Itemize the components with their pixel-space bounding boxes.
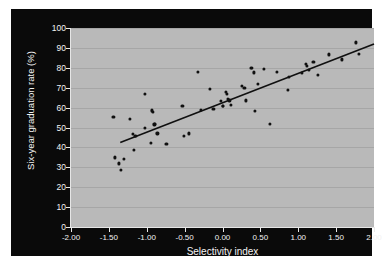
scatter-point: [149, 141, 152, 144]
scatter-point: [219, 100, 222, 103]
scatter-point: [229, 104, 232, 107]
gridline: [71, 88, 374, 89]
y-tick-mark: [66, 88, 71, 89]
scatter-point: [199, 109, 202, 112]
x-tick-label: -0.50: [176, 233, 194, 242]
y-tick-label: 50: [57, 123, 66, 132]
gridline: [71, 187, 374, 188]
x-tick-mark: [147, 227, 148, 232]
scatter-point: [288, 75, 291, 78]
scatter-point: [252, 71, 255, 74]
y-tick-label: 80: [57, 63, 66, 72]
gridline: [71, 207, 374, 208]
x-tick-mark: [185, 227, 186, 232]
scatter-point: [312, 60, 315, 63]
x-tick-mark: [374, 227, 375, 232]
scatter-point: [354, 41, 357, 44]
y-tick-label: 0: [61, 223, 66, 232]
y-tick-mark: [66, 128, 71, 129]
y-tick-label: 20: [57, 183, 66, 192]
gridline: [71, 108, 374, 109]
y-tick-label: 70: [57, 83, 66, 92]
y-tick-mark: [66, 207, 71, 208]
x-tick-label: 2.00: [366, 233, 382, 242]
x-tick-mark: [71, 227, 72, 232]
y-tick-label: 40: [57, 143, 66, 152]
gridline: [71, 147, 374, 148]
gridline: [71, 167, 374, 168]
figure-container: 0102030405060708090100 -2.00-1.50-1.00-0…: [0, 0, 382, 271]
scatter-point: [156, 132, 159, 135]
scatter-point: [316, 74, 319, 77]
chart-panel: 0102030405060708090100 -2.00-1.50-1.00-0…: [11, 9, 372, 256]
y-tick-labels-group: 0102030405060708090100: [39, 28, 66, 227]
scatter-point: [250, 66, 253, 69]
scatter-point: [132, 148, 135, 151]
y-tick-mark: [66, 187, 71, 188]
scatter-point: [328, 53, 331, 56]
x-tick-mark: [223, 227, 224, 232]
y-tick-mark: [66, 167, 71, 168]
y-tick-mark: [66, 28, 71, 29]
x-tick-mark: [109, 227, 110, 232]
scatter-point: [300, 71, 303, 74]
scatter-point: [153, 122, 156, 125]
scatter-point: [182, 134, 185, 137]
x-tick-mark: [260, 227, 261, 232]
x-tick-label: -1.00: [138, 233, 156, 242]
scatter-point: [228, 99, 231, 102]
scatter-point: [196, 70, 199, 73]
scatter-point: [208, 87, 211, 90]
y-tick-label: 60: [57, 103, 66, 112]
y-axis-title: Six-year graduation rate (%): [25, 36, 36, 186]
scatter-point: [144, 127, 147, 130]
scatter-point: [151, 110, 154, 113]
y-tick-mark: [66, 108, 71, 109]
scatter-point: [119, 168, 122, 171]
y-tick-label: 100: [52, 24, 66, 33]
scatter-point: [243, 86, 246, 89]
y-tick-mark: [66, 48, 71, 49]
scatter-point: [122, 157, 125, 160]
scatter-point: [135, 134, 138, 137]
x-tick-label: 0.50: [253, 233, 269, 242]
scatter-point: [212, 108, 215, 111]
y-tick-label: 10: [57, 203, 66, 212]
y-tick-label: 90: [57, 43, 66, 52]
scatter-point: [257, 83, 260, 86]
x-tick-label: 0.00: [215, 233, 231, 242]
scatter-point: [113, 156, 116, 159]
x-tick-label: -1.50: [100, 233, 118, 242]
scatter-point: [263, 67, 266, 70]
y-tick-mark: [66, 68, 71, 69]
gridline: [71, 128, 374, 129]
scatter-point: [341, 58, 344, 61]
x-tick-labels-group: -2.00-1.50-1.00-0.500.000.501.001.502.00: [71, 233, 374, 245]
scatter-point: [357, 53, 360, 56]
y-tick-label: 30: [57, 163, 66, 172]
x-tick-mark: [298, 227, 299, 232]
scatter-point: [128, 118, 131, 121]
scatter-point: [225, 92, 228, 95]
gridline: [71, 28, 374, 29]
scatter-point: [165, 142, 168, 145]
scatter-point: [112, 115, 115, 118]
x-axis-title: Selectivity index: [71, 246, 374, 258]
x-tick-label: 1.00: [290, 233, 306, 242]
y-tick-mark: [66, 147, 71, 148]
scatter-point: [286, 88, 289, 91]
scatter-point: [244, 99, 247, 102]
x-tick-label: -2.00: [62, 233, 80, 242]
gridline: [71, 68, 374, 69]
x-tick-label: 1.50: [328, 233, 344, 242]
scatter-point: [144, 92, 147, 95]
scatter-point: [275, 70, 278, 73]
scatter-point: [307, 68, 310, 71]
x-tick-mark: [336, 227, 337, 232]
gridline: [71, 48, 374, 49]
scatter-point: [188, 132, 191, 135]
scatter-point: [253, 110, 256, 113]
scatter-point: [117, 162, 120, 165]
scatter-point: [269, 122, 272, 125]
plot-area: [71, 28, 374, 227]
